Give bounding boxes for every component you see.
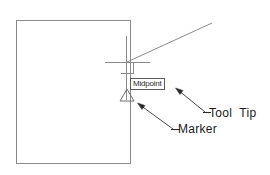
marker-leader-line: [140, 105, 173, 129]
drawing-rectangle: [17, 21, 131, 164]
midpoint-tooltip: Midpoint: [130, 78, 165, 90]
diagonal-object-line: [127, 23, 212, 62]
diagram-canvas: Midpoint Tool Tip Marker: [0, 0, 270, 175]
annotation-label-marker: Marker: [178, 122, 217, 136]
tooltip-leader-line: [178, 90, 205, 112]
annotation-label-tool-tip: Tool Tip: [209, 106, 256, 120]
marker-leader-arrowhead: [138, 103, 146, 110]
